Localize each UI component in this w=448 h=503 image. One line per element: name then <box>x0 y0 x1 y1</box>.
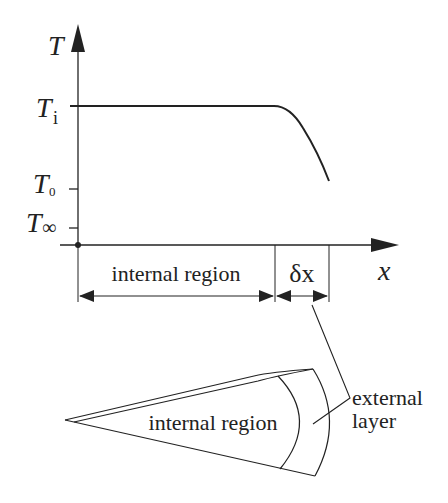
tick-label-T0: T 0 <box>33 168 56 199</box>
temperature-curve <box>70 106 329 181</box>
x-axis-label: x <box>377 255 391 286</box>
x-axis-arrow-icon <box>371 238 399 252</box>
tick-label-T0-sub: 0 <box>49 184 56 199</box>
tick-label-Ti-main: T <box>36 92 54 123</box>
leader-line <box>312 305 350 424</box>
dimension-internal-label: internal region <box>112 261 241 286</box>
arrowhead-right-icon <box>259 290 274 302</box>
temperature-profile-diagram: T T i T 0 T ∞ x internal region δx inter… <box>0 0 448 503</box>
arrowhead-delta-right-icon <box>313 290 328 302</box>
arrowhead-left-icon <box>79 290 94 302</box>
tick-label-Ti: T i <box>36 92 58 128</box>
y-axis-label: T <box>48 30 66 61</box>
external-layer-label-line1: external <box>352 385 423 410</box>
tick-label-Tinf: T ∞ <box>26 207 56 238</box>
tick-label-Ti-sub: i <box>53 108 58 128</box>
arrowhead-delta-left-icon <box>276 290 291 302</box>
dimension-delta-label: δx <box>289 259 314 288</box>
y-axis-arrow-icon <box>71 24 85 52</box>
wedge-internal-label: internal region <box>149 410 278 435</box>
inner-arc <box>278 376 300 469</box>
tick-label-Tinf-sub: ∞ <box>42 216 56 238</box>
external-layer-label-line2: layer <box>352 408 397 433</box>
